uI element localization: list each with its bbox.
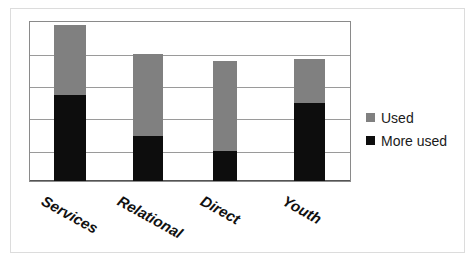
bar-services[interactable] [54,25,86,181]
gray-square-icon [366,113,375,122]
bar-youth[interactable] [294,59,325,181]
chart-legend: Used More used [366,108,447,154]
bar-segment-used [294,59,325,103]
x-tick-label-relational: Relational [115,192,186,242]
bar-segment-used [213,61,237,151]
bar-segment-used [133,54,163,136]
x-tick-label-youth: Youth [280,192,325,227]
x-tick-label-direct: Direct [198,192,243,227]
bar-segment-more-used [213,151,237,181]
bar-relational[interactable] [133,54,163,181]
legend-label-used: Used [381,111,414,125]
plot-area [29,21,351,182]
bars-layer [30,22,350,181]
bar-segment-more-used [54,95,86,181]
x-tick-label-services: Services [39,192,101,237]
chart-figure: Services Relational Direct Youth Used Mo… [0,0,475,264]
bar-segment-used [54,25,86,95]
bar-segment-more-used [133,136,163,181]
bar-direct[interactable] [213,61,237,181]
legend-label-more-used: More used [381,134,447,148]
bar-segment-more-used [294,103,325,181]
legend-item-more-used[interactable]: More used [366,131,447,150]
legend-item-used[interactable]: Used [366,108,447,127]
black-square-icon [366,136,375,145]
